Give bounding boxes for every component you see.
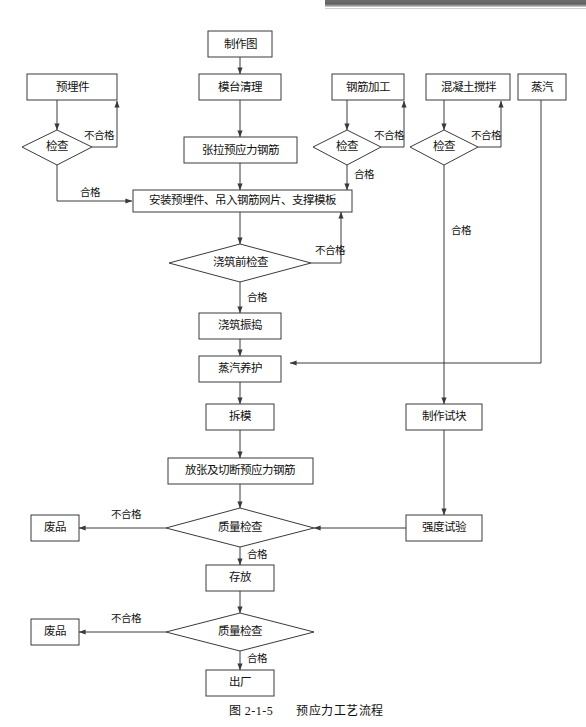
node-strength-test-label: 强度试验	[422, 520, 467, 533]
edge-label-concrete-pass: 合格	[451, 224, 472, 236]
flowchart-page: 制作图 模台清理 张拉预应力钢筋 预埋件 检查 钢筋加工 检查 混凝土搅拌 检查…	[0, 0, 586, 727]
node-concrete-mixing-label: 混凝土搅拌	[441, 80, 497, 93]
edge-label-quality1-pass: 合格	[247, 548, 268, 560]
edge-label-prepour-fail: 不合格	[315, 244, 346, 256]
node-demould-label: 拆模	[229, 409, 252, 422]
node-factory-out-label: 出厂	[229, 675, 251, 688]
node-rebar-inspect-label: 检查	[336, 139, 359, 152]
node-quality-inspect-2-label: 质量检查	[218, 624, 263, 637]
node-rebar-processing-label: 钢筋加工	[346, 80, 390, 93]
node-tension-prestress-bars-label: 张拉预应力钢筋	[202, 143, 279, 156]
node-make-test-block-label: 制作试块	[422, 410, 467, 422]
node-embedded-parts-label: 预埋件	[56, 80, 89, 93]
figure-caption-title: 预应力工艺流程	[296, 703, 384, 718]
node-scrap-2-label: 废品	[44, 624, 66, 637]
edge-label-embedded-fail: 不合格	[84, 129, 115, 141]
node-scrap-1-label: 废品	[44, 520, 66, 533]
node-quality-inspect-1-label: 质量检查	[218, 520, 263, 533]
node-concrete-inspect-label: 检查	[433, 139, 456, 152]
node-release-cut-bars-label: 放张及切断预应力钢筋	[185, 463, 295, 476]
node-steam-label: 蒸汽	[531, 80, 554, 93]
node-platform-cleaning-label: 模台清理	[218, 80, 263, 93]
edge-label-quality2-fail: 不合格	[111, 612, 142, 624]
edge-label-rebar-fail: 不合格	[374, 129, 405, 141]
edge-label-prepour-pass: 合格	[247, 291, 268, 303]
prestress-process-flowchart: 制作图 模台清理 张拉预应力钢筋 预埋件 检查 钢筋加工 检查 混凝土搅拌 检查…	[0, 0, 586, 727]
figure-caption-number: 图 2-1-5	[229, 704, 274, 718]
node-drawing-label: 制作图	[224, 38, 257, 50]
node-pre-pour-inspect-label: 浇筑前检查	[213, 255, 269, 268]
edge-label-quality1-fail: 不合格	[111, 508, 142, 520]
node-steam-curing-label: 蒸汽养护	[218, 361, 262, 374]
node-embedded-inspect-label: 检查	[46, 139, 69, 152]
node-storage-label: 存放	[229, 570, 252, 583]
edge-label-rebar-pass: 合格	[354, 168, 375, 180]
node-pour-vibrate-label: 浇筑振捣	[218, 318, 262, 331]
node-install-assembly-label: 安装预埋件、吊入钢筋网片、支撑模板	[149, 193, 337, 206]
edge-label-quality2-pass: 合格	[247, 652, 268, 664]
edge-label-concrete-fail: 不合格	[471, 129, 502, 141]
edge-label-embedded-pass: 合格	[80, 186, 101, 198]
